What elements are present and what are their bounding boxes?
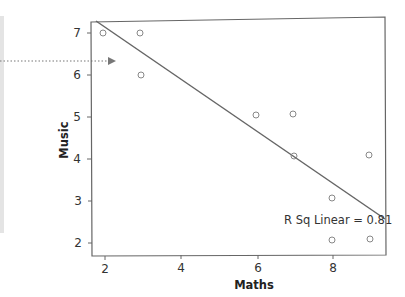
- y-tick-label: 6: [73, 68, 81, 82]
- y-tick-label: 5: [73, 110, 81, 124]
- r-squared-annotation: R Sq Linear = 0.81: [284, 213, 392, 227]
- data-point: [366, 152, 372, 158]
- data-point: [367, 236, 373, 242]
- scatter-chart: 7 6 5 4 3 2 2 4 6 8 Maths Music R Sq Lin…: [0, 0, 405, 297]
- data-point: [253, 112, 259, 118]
- y-tick-label: 2: [74, 236, 82, 250]
- x-tick-labels: 2 4 6 8: [101, 261, 337, 276]
- y-tick-labels: 7 6 5 4 3 2: [73, 26, 82, 250]
- x-axis-title: Maths: [234, 278, 274, 292]
- data-point: [138, 72, 144, 78]
- data-point: [290, 111, 296, 117]
- y-axis-title: Music: [57, 121, 71, 158]
- x-tick-label: 2: [101, 262, 109, 276]
- dotted-pointer-arrow: [0, 57, 116, 65]
- y-tick-label: 3: [74, 194, 82, 208]
- regression-line: [96, 21, 385, 219]
- data-point: [100, 30, 106, 36]
- data-point: [329, 237, 335, 243]
- y-tick-label: 4: [73, 152, 81, 166]
- y-tick-label: 7: [73, 26, 81, 40]
- x-tick-label: 6: [254, 261, 262, 275]
- x-tick-label: 8: [329, 261, 337, 275]
- data-points: [100, 30, 373, 243]
- data-point: [137, 30, 143, 36]
- x-tick-label: 4: [177, 261, 185, 275]
- data-point: [329, 195, 335, 201]
